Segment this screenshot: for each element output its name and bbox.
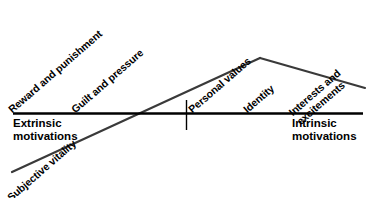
motivation-continuum-diagram: Reward and punishment Guilt and pressure…	[0, 0, 371, 198]
extrinsic-line2: motivations	[13, 130, 78, 142]
extrinsic-line1: Extrinsic	[13, 117, 62, 129]
label-intrinsic-motivations: Intrinsicmotivations	[292, 117, 357, 142]
label-extrinsic-motivations: Extrinsicmotivations	[13, 117, 78, 142]
intrinsic-line2: motivations	[292, 130, 357, 142]
intrinsic-line1: Intrinsic	[292, 117, 337, 129]
